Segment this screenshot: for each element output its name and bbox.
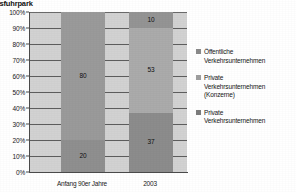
plot-inner: 2080375310: [30, 12, 187, 172]
legend-color-swatch: [196, 75, 201, 80]
y-axis-tick-label: 20%: [0, 137, 25, 144]
y-axis-tick-label: 30%: [0, 121, 25, 128]
x-axis-tick-label: 2003: [105, 180, 195, 187]
legend-item[interactable]: PrivateVerkehrsunternehmen: [196, 109, 296, 126]
bar-segment[interactable]: 10: [129, 12, 173, 28]
bar-segment[interactable]: 37: [129, 113, 173, 172]
bar-segment-value: 10: [147, 17, 154, 24]
y-axis-tick-label: 80%: [0, 41, 25, 48]
y-axis-tick-label: 60%: [0, 73, 25, 80]
y-axis-tick-label: 40%: [0, 105, 25, 112]
legend-label: PrivateVerkehrsunternehmen: [204, 109, 265, 126]
y-axis-tick-label: 10%: [0, 153, 25, 160]
legend-item[interactable]: PrivateVerkehrsunternehmen(Konzerne): [196, 74, 296, 100]
legend-color-swatch: [196, 110, 201, 115]
legend-color-swatch: [196, 49, 201, 54]
chart-legend: ÖffentlicheVerkehrsunternehmenPrivateVer…: [196, 48, 296, 135]
legend-label: PrivateVerkehrsunternehmen(Konzerne): [204, 74, 265, 100]
bar-segment-value: 53: [147, 67, 154, 74]
legend-label: ÖffentlicheVerkehrsunternehmen: [204, 48, 265, 65]
bar-segment[interactable]: 20: [61, 140, 105, 172]
bar-1[interactable]: 2080: [61, 12, 105, 172]
y-axis-tick-label: 100%: [0, 9, 25, 16]
bar-segment[interactable]: 53: [129, 28, 173, 113]
y-axis-tick-label: 70%: [0, 57, 25, 64]
bar-2[interactable]: 375310: [129, 12, 173, 172]
y-axis-tick-label: 0%: [0, 169, 25, 176]
bar-segment-value: 20: [79, 153, 86, 160]
plot-area: 2080375310: [29, 12, 187, 172]
y-axis-tick-label: 50%: [0, 89, 25, 96]
bar-segment-value: 80: [79, 73, 86, 80]
legend-item[interactable]: ÖffentlicheVerkehrsunternehmen: [196, 48, 296, 65]
bar-segment-value: 37: [147, 139, 154, 146]
x-axis-line: [29, 172, 188, 173]
bar-segment[interactable]: 80: [61, 12, 105, 140]
chart-title: usfuhrpark: [0, 0, 33, 8]
y-axis-tick-label: 90%: [0, 25, 25, 32]
